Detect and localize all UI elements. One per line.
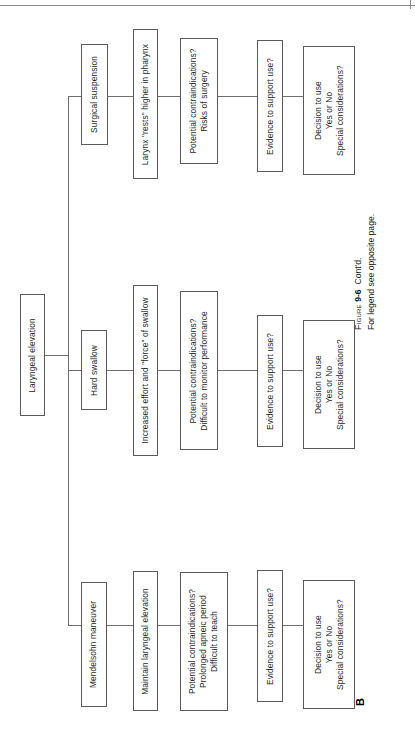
node-top-effect-label: Larynx "rests" higher in pharynx — [140, 43, 151, 164]
node-middle-technique-label: Hard swallow — [89, 344, 100, 395]
node-middle-contraindications-label: Potential contraindications? Difficult t… — [188, 311, 210, 430]
node-middle-decision-line3: Special considerations? — [335, 339, 345, 430]
figure-caption-line2: For legend see opposite page. — [365, 210, 378, 330]
figure-caption: Figure 9-6 Cont'd. For legend see opposi… — [352, 210, 415, 330]
node-middle-decision-label: Decision to use Yes or No Special consid… — [313, 339, 346, 430]
node-root-label: Laryngeal elevation — [27, 318, 38, 393]
node-top-decision-line2: Yes or No — [324, 92, 334, 129]
node-middle-effect-label: Increased effort and "force" of swallow — [140, 297, 151, 443]
node-top-decision-line3: Special considerations? — [335, 65, 345, 156]
node-top-decision: Decision to use Yes or No Special consid… — [303, 46, 355, 175]
node-middle-technique: Hard swallow — [81, 330, 107, 410]
node-middle-evidence-label: Evidence to support use? — [265, 333, 276, 430]
connector-branch-bottom-stem — [68, 625, 82, 626]
node-top-effect: Larynx "rests" higher in pharynx — [133, 29, 158, 179]
node-bottom-contraindications: Potential contraindications? Prolonged a… — [180, 572, 228, 711]
node-bottom-evidence-label: Evidence to support use? — [265, 588, 276, 685]
panel-letter-b: B — [354, 698, 366, 706]
connector-root-stem — [45, 355, 69, 356]
connector-bottom-3-4 — [228, 625, 258, 626]
node-middle-evidence: Evidence to support use? — [257, 315, 283, 447]
node-top-contraindications-line1: Potential contraindications? — [188, 48, 198, 153]
node-middle-effect: Increased effort and "force" of swallow — [133, 285, 158, 456]
node-bottom-decision: Decision to use Yes or No Special consid… — [303, 580, 355, 709]
node-bottom-decision-line1: Decision to use — [313, 615, 323, 674]
node-bottom-decision-line3: Special considerations? — [335, 599, 345, 690]
node-top-decision-label: Decision to use Yes or No Special consid… — [313, 65, 346, 156]
node-top-decision-line1: Decision to use — [313, 81, 323, 140]
node-middle-decision-line2: Yes or No — [324, 366, 334, 403]
connector-middle-4-5 — [283, 370, 304, 371]
connector-middle-2-3 — [158, 370, 181, 371]
node-bottom-technique: Mendelsohn maneuver — [81, 582, 107, 707]
figure-caption-word: Figure — [353, 304, 363, 330]
figure-caption-contd: Cont'd. — [353, 258, 363, 285]
laryngeal-elevation-flowchart: Laryngeal elevation Surgical suspension … — [0, 0, 415, 752]
node-bottom-effect-label: Maintain laryngeal elevation — [140, 588, 151, 695]
node-root-laryngeal-elevation: Laryngeal elevation — [20, 294, 45, 416]
connector-middle-1-2 — [107, 370, 134, 371]
connector-bottom-4-5 — [283, 625, 304, 626]
node-middle-decision-line1: Decision to use — [313, 355, 323, 414]
node-top-contraindications: Potential contraindications? Risks of su… — [180, 38, 218, 164]
node-top-contraindications-line2: Risks of surgery — [199, 70, 209, 132]
node-bottom-technique-label: Mendelsohn maneuver — [89, 601, 100, 688]
node-bottom-contraindications-label: Potential contraindications? Prolonged a… — [188, 589, 221, 694]
node-middle-contraindications: Potential contraindications? Difficult t… — [180, 291, 218, 450]
connector-main-trunk — [68, 96, 69, 625]
connector-top-1-2 — [108, 96, 134, 97]
connector-branch-middle-stem — [68, 370, 82, 371]
connector-top-4-5 — [283, 96, 304, 97]
node-bottom-evidence: Evidence to support use? — [257, 570, 283, 702]
node-top-evidence-label: Evidence to support use? — [265, 58, 276, 155]
connector-branch-top-stem — [68, 96, 82, 97]
node-top-technique-label: Surgical suspension — [89, 56, 100, 133]
figure-caption-line1: Figure 9-6 Cont'd. — [352, 210, 365, 330]
node-middle-contraindications-line2: Difficult to monitor performance — [199, 311, 209, 430]
connector-bottom-1-2 — [107, 625, 134, 626]
node-bottom-contraindications-line3: Difficult to teach — [210, 611, 220, 672]
node-middle-decision: Decision to use Yes or No Special consid… — [303, 320, 355, 449]
node-bottom-contraindications-line2: Prolonged apneic period — [199, 595, 209, 688]
connector-top-3-4 — [218, 96, 258, 97]
node-bottom-decision-line2: Yes or No — [324, 626, 334, 663]
connector-middle-3-4 — [218, 370, 258, 371]
node-middle-contraindications-line1: Potential contraindications? — [188, 318, 198, 423]
figure-caption-number: 9-6 — [353, 289, 363, 301]
node-top-contraindications-label: Potential contraindications? Risks of su… — [188, 48, 210, 153]
node-top-technique: Surgical suspension — [81, 44, 108, 145]
node-bottom-decision-label: Decision to use Yes or No Special consid… — [313, 599, 346, 690]
connector-top-2-3 — [158, 96, 181, 97]
node-bottom-effect: Maintain laryngeal elevation — [133, 571, 158, 711]
node-bottom-contraindications-line1: Potential contraindications? — [188, 589, 198, 694]
connector-bottom-2-3 — [158, 625, 181, 626]
node-top-evidence: Evidence to support use? — [257, 40, 283, 172]
